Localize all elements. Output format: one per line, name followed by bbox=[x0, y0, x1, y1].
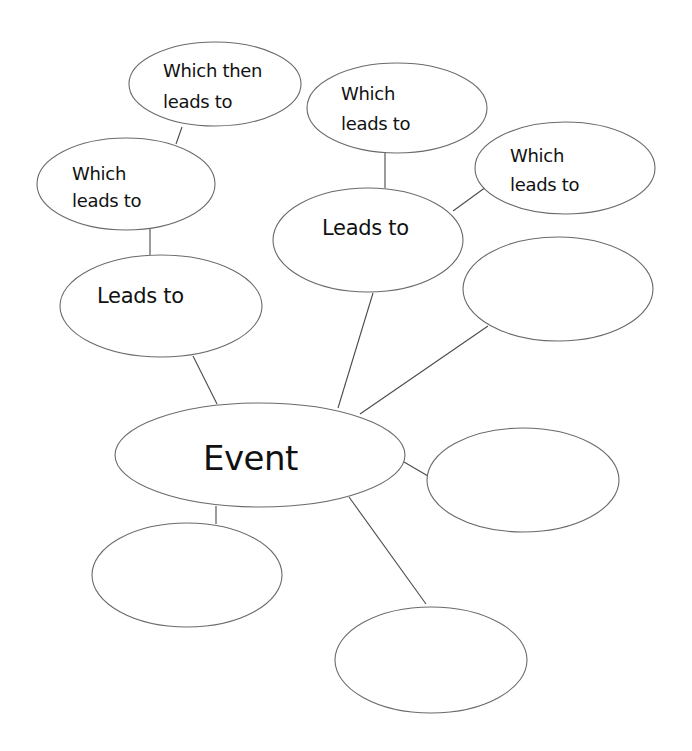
bubble-shape bbox=[273, 188, 463, 292]
node-text-line: leads to bbox=[72, 190, 142, 211]
node-center-leads-to: Leads to bbox=[273, 188, 463, 292]
node-blank-bottom bbox=[335, 607, 527, 713]
node-blank-right-upper bbox=[463, 237, 653, 341]
node-left-which-leads-to: Which leads to bbox=[37, 138, 215, 230]
node-text-line: Leads to bbox=[97, 284, 184, 308]
bubble-shape bbox=[335, 607, 527, 713]
bubble-shape bbox=[129, 42, 301, 126]
node-right-which-leads-to: Which leads to bbox=[475, 122, 655, 214]
edge-leads-to-right-which bbox=[453, 187, 486, 211]
node-text-line: leads to bbox=[341, 113, 411, 134]
bubble-shape bbox=[92, 523, 282, 627]
node-text-line: Which bbox=[72, 163, 126, 184]
node-text-line: Leads to bbox=[322, 216, 409, 240]
node-text-line: leads to bbox=[510, 174, 580, 195]
node-text-line: leads to bbox=[163, 91, 233, 112]
edge-which-then-to-which bbox=[176, 127, 182, 144]
bubble-shape bbox=[475, 122, 655, 214]
node-top-which-leads-to: Which leads to bbox=[307, 63, 487, 153]
node-which-then-leads-to: Which then leads to bbox=[129, 42, 301, 126]
node-text-line: Which then bbox=[163, 60, 262, 81]
node-event: Event bbox=[115, 403, 405, 507]
node-text-line: Which bbox=[341, 83, 395, 104]
bubble-shape bbox=[427, 428, 619, 532]
edge-event-to-blank-right bbox=[404, 462, 428, 476]
bubble-shape bbox=[307, 63, 487, 153]
node-blank-bottom-left bbox=[92, 523, 282, 627]
node-blank-right-lower bbox=[427, 428, 619, 532]
edge-center-leads-to-event bbox=[338, 293, 373, 408]
edge-leads-to-event-left bbox=[193, 356, 217, 404]
event-label: Event bbox=[203, 438, 298, 478]
cause-effect-diagram: Which then leads to Which leads to Leads… bbox=[0, 0, 692, 751]
node-text-line: Which bbox=[510, 145, 564, 166]
edge-event-to-blank-bottom bbox=[349, 497, 426, 604]
bubble-shape bbox=[37, 138, 215, 230]
edge-blank-upper-to-event bbox=[360, 326, 488, 414]
bubble-shape bbox=[463, 237, 653, 341]
node-left-leads-to: Leads to bbox=[60, 255, 262, 357]
